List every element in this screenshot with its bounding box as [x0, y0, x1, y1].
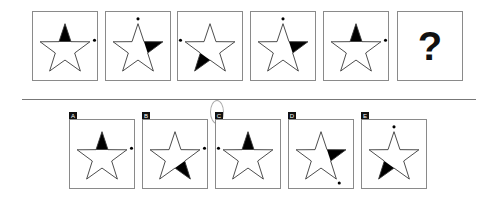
star-outline [113, 24, 163, 71]
star-figure [362, 120, 426, 188]
star-outline [258, 24, 308, 71]
filled-point-wedge [59, 24, 71, 42]
star-figure [143, 120, 207, 188]
star-figure [70, 120, 134, 188]
sequence-panel-2 [105, 11, 171, 81]
star-figure [324, 12, 388, 80]
star-figure [216, 120, 280, 188]
filled-point-wedge [96, 132, 108, 150]
dot-marker [93, 39, 96, 42]
star-figure [251, 12, 315, 80]
option-d[interactable] [288, 119, 354, 189]
sequence-panel-4 [250, 11, 316, 81]
dot-marker [179, 39, 182, 42]
dot-marker [281, 17, 284, 20]
sequence-panel-3 [177, 11, 243, 81]
question-mark: ? [398, 12, 462, 80]
star-outline [185, 24, 235, 71]
star-figure [289, 120, 353, 188]
dot-marker [203, 147, 206, 150]
divider-line [22, 99, 476, 100]
filled-point-wedge [242, 132, 254, 150]
dot-marker [338, 181, 341, 184]
dot-marker [392, 125, 395, 128]
option-e[interactable] [361, 119, 427, 189]
star-figure [33, 12, 97, 80]
dot-marker [217, 147, 220, 150]
sequence-panel-5 [323, 11, 389, 81]
star-outline [296, 132, 346, 179]
star-outline [369, 132, 419, 179]
option-b[interactable] [142, 119, 208, 189]
dot-marker [384, 39, 387, 42]
option-a[interactable] [69, 119, 135, 189]
star-outline [150, 132, 200, 179]
dot-marker [130, 147, 133, 150]
sequence-panel-question: ? [397, 11, 463, 81]
star-figure [106, 12, 170, 80]
option-c[interactable] [215, 119, 281, 189]
sequence-panel-1 [32, 11, 98, 81]
dot-marker [136, 17, 139, 20]
filled-point-wedge [350, 24, 362, 42]
star-figure [178, 12, 242, 80]
